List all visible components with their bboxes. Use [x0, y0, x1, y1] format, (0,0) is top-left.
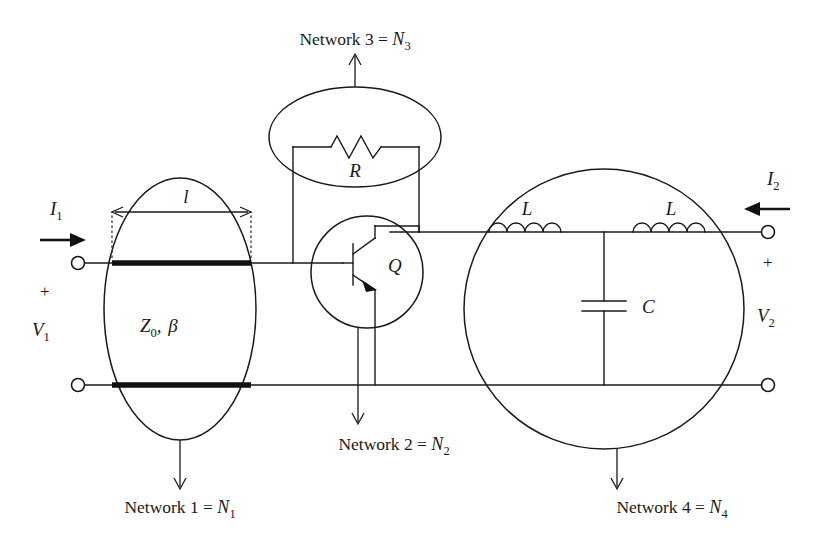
- inductor-right-coil: [633, 223, 705, 232]
- input-current-arrow-head: [70, 233, 86, 247]
- network-2-label: Network 2 = N2: [338, 434, 449, 458]
- resistor-label: R: [348, 160, 361, 181]
- resistor-zigzag: [331, 136, 381, 158]
- input-terminal-bottom[interactable]: [72, 379, 85, 392]
- inductor-left-label: L: [521, 198, 533, 219]
- input-polarity-plus: +: [40, 282, 50, 301]
- network-4-label: Network 4 = N4: [616, 497, 728, 521]
- network-1-label: Network 1 = N1: [124, 497, 235, 521]
- network-2-bubble: [311, 216, 423, 328]
- output-terminal-bottom[interactable]: [762, 379, 775, 392]
- transmission-line-impedance-label: Z0, β: [140, 315, 178, 340]
- network-1-bubble: [104, 178, 256, 440]
- transistor-collector-slant: [353, 238, 375, 254]
- output-voltage-label: V2: [757, 305, 775, 330]
- input-voltage-label: V1: [32, 319, 50, 344]
- input-terminal-top[interactable]: [72, 257, 85, 270]
- input-current-label: I1: [49, 198, 63, 223]
- output-polarity-plus: +: [763, 253, 773, 272]
- transistor-label: Q: [388, 255, 402, 276]
- network-3-label: Network 3 = N3: [299, 29, 410, 53]
- output-current-label: I2: [766, 168, 780, 193]
- network-4-bubble: [464, 169, 744, 449]
- capacitor-label: C: [642, 296, 655, 317]
- figure-canvas: l Z0, β Network 1 = N1 I1 + V1 R Network…: [0, 0, 819, 560]
- transmission-line-length-label: l: [183, 186, 188, 207]
- inductor-right-label: L: [665, 198, 677, 219]
- circuit-diagram: l Z0, β Network 1 = N1 I1 + V1 R Network…: [0, 0, 819, 560]
- inductor-left-coil: [489, 223, 561, 232]
- output-current-arrow-head: [744, 202, 760, 216]
- output-terminal-top[interactable]: [762, 226, 775, 239]
